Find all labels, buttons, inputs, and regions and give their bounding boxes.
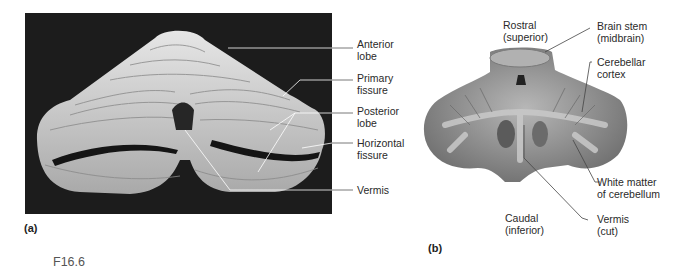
label-line: lobe — [357, 50, 394, 62]
label-line: Caudal — [505, 212, 544, 224]
label-line: Cerebellar — [597, 56, 645, 68]
label-line: cortex — [597, 68, 645, 80]
label-line: Horizontal — [357, 137, 404, 149]
label-line: Rostral — [503, 19, 548, 31]
label-line: (midbrain) — [597, 32, 647, 44]
label-cerebellar-cortex: Cerebellar cortex — [597, 56, 645, 80]
label-vermis-cut: Vermis (cut) — [597, 213, 629, 237]
figure-art — [0, 0, 685, 277]
label-rostral: Rostral (superior) — [503, 19, 548, 43]
label-line: Brain stem — [597, 20, 647, 32]
label-line: Anterior — [357, 38, 394, 50]
label-line: (cut) — [597, 225, 629, 237]
label-line: lobe — [357, 117, 399, 129]
label-line: of cerebellum — [597, 188, 660, 200]
panel-tag-a: (a) — [24, 222, 37, 234]
label-anterior-lobe: Anterior lobe — [357, 38, 394, 62]
label-line: (superior) — [503, 31, 548, 43]
label-line: Primary — [357, 72, 393, 84]
label-line: Vermis — [357, 184, 389, 196]
label-line: fissure — [357, 149, 404, 161]
figure-id: F16.6 — [53, 255, 85, 269]
label-posterior-lobe: Posterior lobe — [357, 105, 399, 129]
label-brain-stem: Brain stem (midbrain) — [597, 20, 647, 44]
label-line: Posterior — [357, 105, 399, 117]
label-white-matter: White matter of cerebellum — [597, 176, 660, 200]
label-caudal: Caudal (inferior) — [505, 212, 544, 236]
label-vermis: Vermis — [357, 184, 389, 196]
photo-cerebellum-posterior — [25, 13, 353, 214]
label-line: fissure — [357, 84, 393, 96]
label-line: Vermis — [597, 213, 629, 225]
label-primary-fissure: Primary fissure — [357, 72, 393, 96]
label-horizontal-fissure: Horizontal fissure — [357, 137, 404, 161]
label-line: (inferior) — [505, 224, 544, 236]
panel-tag-b: (b) — [428, 242, 442, 254]
label-line: White matter — [597, 176, 660, 188]
